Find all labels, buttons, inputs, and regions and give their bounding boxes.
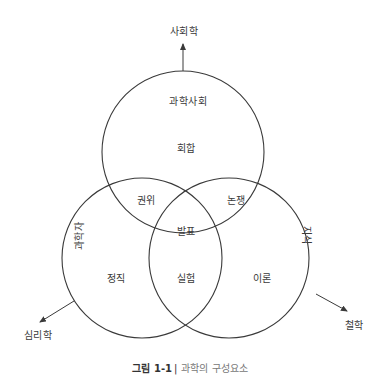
caption-separator: |: [174, 363, 177, 374]
label-experiment: 실험: [177, 270, 196, 285]
label-knowledge: 지식: [300, 226, 315, 245]
venn-diagram: [0, 0, 380, 389]
figure-caption: 그림 1-1|과학의 구성요소: [0, 360, 380, 375]
label-authority: 권위: [137, 192, 156, 207]
label-honesty: 정직: [107, 270, 126, 285]
label-sociology: 사회학: [170, 23, 199, 38]
label-theory: 이론: [253, 270, 272, 285]
label-philosophy: 철학: [345, 317, 364, 332]
label-scientist: 과학자: [71, 222, 86, 251]
label-meeting: 회합: [177, 140, 196, 155]
arrow-psychology: [40, 301, 74, 322]
arrow-philosophy: [316, 294, 347, 311]
label-science-society: 과학사회: [169, 93, 207, 108]
label-presentation: 발표: [177, 223, 196, 238]
figure-title: 과학의 구성요소: [181, 363, 247, 374]
label-psychology: 심리학: [24, 327, 53, 342]
label-debate: 논쟁: [227, 192, 246, 207]
figure-number: 그림 1-1: [132, 363, 172, 374]
